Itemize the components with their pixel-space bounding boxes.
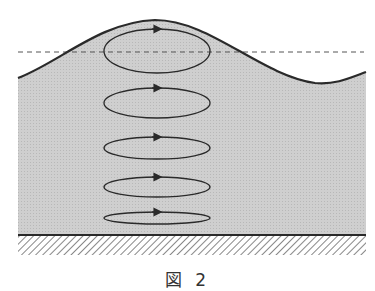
hatched-seabed (18, 235, 366, 255)
figure-caption: 図 2 (0, 266, 375, 291)
